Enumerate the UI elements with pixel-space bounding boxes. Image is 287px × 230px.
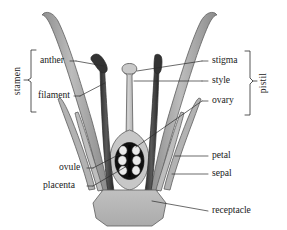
stigma-head [122,64,137,75]
anther-left [91,54,107,73]
stamen-bracket [28,50,36,112]
ovule [118,156,126,165]
label-anther: anther [40,54,65,65]
anther-right [154,54,162,73]
placenta-septum [128,145,130,177]
ovule [133,156,141,165]
ovule [132,146,140,155]
label-ovule: ovule [59,161,80,172]
pistil-group-annotation: pistil [245,51,268,115]
diagram-canvas: stamen pistil anther filament ovule plac… [0,0,287,230]
ovule [132,166,140,175]
label-filament: filament [38,89,70,100]
pistil-bracket [245,51,253,115]
label-receptacle: receptacle [212,204,251,215]
flower-anatomy-diagram: stamen pistil anther filament ovule plac… [0,0,287,230]
style-column [123,64,136,140]
label-style: style [212,74,230,85]
label-sepal: sepal [212,167,232,178]
ovule [119,166,127,175]
leader-stigma [137,61,208,71]
petal-right-outer [151,12,217,191]
pistil-group-label: pistil [257,73,268,94]
ovule [119,146,127,155]
flower-drawing [42,12,217,226]
label-ovary: ovary [212,94,234,105]
label-petal: petal [212,149,231,160]
label-stigma: stigma [212,54,238,65]
label-placenta: placenta [43,179,76,190]
stamen-group-label: stamen [11,67,22,95]
receptacle [93,190,166,226]
stamen-group-annotation: stamen [11,50,36,112]
